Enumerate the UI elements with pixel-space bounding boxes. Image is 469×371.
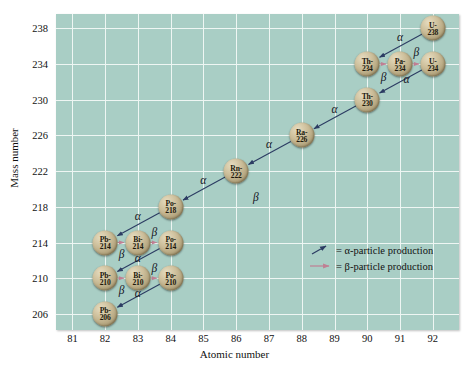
- nuclide-mass: 230: [362, 100, 373, 107]
- beta-arrow-icon: [307, 259, 333, 273]
- nuclide-marker-po-218[interactable]: Po-218: [158, 194, 183, 219]
- alpha-arrow-icon: [307, 243, 333, 257]
- nuclide-marker-rn-222[interactable]: Rn-222: [224, 159, 249, 184]
- nuclide-marker-th-234[interactable]: Th-234: [355, 52, 380, 77]
- y-tick-label: 234: [14, 59, 48, 70]
- nuclide-marker-th-230[interactable]: Th-230: [355, 87, 380, 112]
- legend-item: = α-particle production: [307, 242, 433, 258]
- plot-area: U-238Th-234Pa-234U-234Th-230Ra-226Rn-222…: [56, 14, 459, 330]
- x-tick-label: 87: [264, 333, 275, 344]
- beta-label: β: [253, 191, 259, 203]
- x-tick-label: 90: [362, 333, 373, 344]
- x-tick-label: 84: [165, 333, 176, 344]
- nuclide-marker-pb-214[interactable]: Pb-214: [93, 230, 118, 255]
- beta-label: β: [381, 71, 387, 83]
- nuclide-marker-ra-226[interactable]: Ra-226: [289, 123, 314, 148]
- x-tick-label: 82: [100, 333, 111, 344]
- alpha-label: α: [331, 103, 337, 115]
- nuclide-mass: 222: [231, 171, 242, 178]
- y-tick-label: 230: [14, 94, 48, 105]
- nuclide-mass: 234: [395, 64, 406, 71]
- nuclide-mass: 214: [100, 243, 111, 250]
- legend-item: = β-particle production: [307, 258, 433, 274]
- x-tick-label: 89: [329, 333, 340, 344]
- alpha-label: α: [135, 287, 141, 299]
- nuclide-mass: 234: [427, 64, 438, 71]
- nuclide-marker-u-234[interactable]: U-234: [420, 52, 445, 77]
- x-tick-label: 85: [198, 333, 209, 344]
- x-tick-label: 88: [296, 333, 307, 344]
- legend-label: = β-particle production: [333, 261, 433, 272]
- nuclide-mass: 226: [296, 135, 307, 142]
- nuclide-marker-pb-206[interactable]: Pb-206: [93, 301, 118, 326]
- x-tick-label: 91: [395, 333, 406, 344]
- alpha-label: α: [397, 31, 403, 43]
- beta-label: β: [151, 262, 157, 274]
- beta-label: β: [119, 248, 125, 260]
- legend-label: = α-particle production: [333, 245, 433, 256]
- x-tick-label: 92: [428, 333, 439, 344]
- x-tick-label: 86: [231, 333, 242, 344]
- nuclide-mass: 210: [165, 278, 176, 285]
- alpha-label: α: [135, 252, 141, 264]
- beta-label: β: [414, 46, 420, 58]
- x-tick-label: 83: [133, 333, 144, 344]
- y-tick-label: 214: [14, 237, 48, 248]
- nuclide-mass: 238: [427, 28, 438, 35]
- beta-label: β: [119, 284, 125, 296]
- alpha-label: α: [404, 73, 410, 85]
- nuclide-mass: 214: [165, 243, 176, 250]
- alpha-label: α: [266, 138, 272, 150]
- x-tick-label: 81: [67, 333, 78, 344]
- nuclide-marker-po-214[interactable]: Po-214: [158, 230, 183, 255]
- y-axis-title: Mass number: [8, 108, 20, 208]
- nuclide-marker-u-238[interactable]: U-238: [420, 16, 445, 41]
- nuclide-mass: 218: [165, 207, 176, 214]
- nuclide-mass: 234: [362, 64, 373, 71]
- nuclide-mass: 206: [100, 314, 111, 321]
- alpha-label: α: [135, 210, 141, 222]
- alpha-label: α: [200, 174, 206, 186]
- nuclide-mass: 210: [100, 278, 111, 285]
- y-tick-label: 206: [14, 308, 48, 319]
- y-tick-label: 210: [14, 273, 48, 284]
- y-tick-label: 238: [14, 23, 48, 34]
- nuclide-mass: 214: [132, 243, 143, 250]
- decay-series-chart: U-238Th-234Pa-234U-234Th-230Ra-226Rn-222…: [0, 0, 469, 371]
- legend: = α-particle production= β-particle prod…: [307, 242, 433, 274]
- x-axis-title: Atomic number: [0, 348, 469, 360]
- nuclide-mass: 210: [132, 278, 143, 285]
- beta-label: β: [151, 226, 157, 238]
- nuclide-marker-pb-210[interactable]: Pb-210: [93, 266, 118, 291]
- nuclide-marker-po-210[interactable]: Po-210: [158, 266, 183, 291]
